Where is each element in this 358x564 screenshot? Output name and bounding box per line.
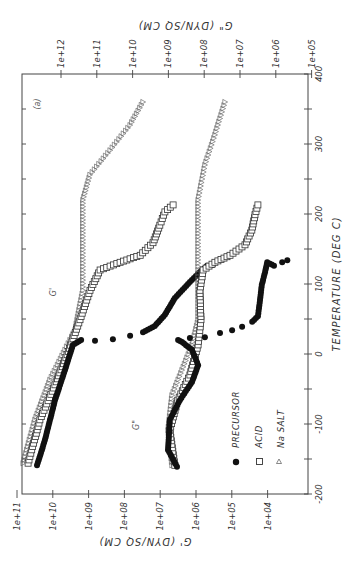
plot-frame <box>22 74 308 494</box>
temperature-tick-label: -100 <box>314 414 324 433</box>
g-prime-axis-label: G' (DYN/SQ CM) <box>98 536 191 547</box>
g-prime-tick-label: 1e+05 <box>227 502 237 531</box>
g-prime-annotation: G' <box>49 288 58 296</box>
temperature-tick-label: 200 <box>314 206 324 222</box>
rheology-chart: -200-1000100200300400 1e+111e+101e+091e+… <box>0 0 358 564</box>
g-prime-tick-label: 1e+09 <box>84 502 94 531</box>
temperature-tick-label: -200 <box>314 484 324 503</box>
legend-label-acid: ACID <box>254 425 264 449</box>
temperature-axis-label: TEMPERATURE (DEG C) <box>331 216 342 351</box>
g-prime-tick-label: 1e+11 <box>12 502 22 531</box>
g-double-prime-tick-label: 1e+12 <box>56 39 66 68</box>
g-double-prime-tick-label: 1e+10 <box>128 39 138 68</box>
series-acid-g- <box>167 202 261 468</box>
legend-label-precursor: PRECURSOR <box>231 391 241 448</box>
g-prime-axis: 1e+111e+101e+091e+081e+071e+061e+051e+04 <box>12 490 273 531</box>
g-double-prime-tick-label: 1e+11 <box>92 39 102 68</box>
panel-label: (a) <box>33 98 42 109</box>
g-double-prime-tick-label: 1e+05 <box>307 39 317 68</box>
legend-label-na-salt: Na SALT <box>276 409 286 448</box>
g-prime-tick-label: 1e+06 <box>191 501 201 530</box>
temperature-tick-label: 300 <box>314 136 324 152</box>
data-series <box>21 99 290 469</box>
g-prime-tick-label: 1e+07 <box>155 501 165 530</box>
g-double-prime-axis-label: G" (DYN/SQ CM) <box>138 20 233 31</box>
g-double-prime-tick-label: 1e+07 <box>235 39 245 68</box>
legend-square-marker <box>257 459 263 465</box>
legend: PRECURSOR ACID Na SALT <box>231 391 286 465</box>
g-double-prime-tick-label: 1e+08 <box>199 39 209 68</box>
g-prime-tick-label: 1e+04 <box>263 502 273 531</box>
legend-triangle-marker <box>277 459 282 464</box>
g-double-prime-tick-label: 1e+06 <box>271 39 281 68</box>
temperature-axis: -200-1000100200300400 <box>304 66 324 504</box>
g-prime-tick-label: 1e+10 <box>48 502 58 531</box>
g-double-prime-axis: 1e+121e+111e+101e+091e+081e+071e+061e+05 <box>56 39 317 78</box>
temperature-tick-label: 0 <box>314 351 324 356</box>
temperature-tick-label: 100 <box>314 276 324 292</box>
legend-circle-marker <box>233 459 239 465</box>
g-double-prime-tick-label: 1e+09 <box>163 39 173 68</box>
g-double-prime-annotation: G" <box>132 420 141 430</box>
g-prime-tick-label: 1e+08 <box>119 501 129 530</box>
left-edge-ticks <box>22 109 26 459</box>
